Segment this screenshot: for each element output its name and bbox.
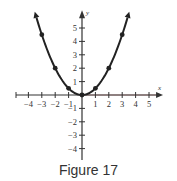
- x-tick-label: −3: [37, 99, 46, 109]
- y-tick-label: −3: [68, 130, 77, 140]
- figure-caption: Figure 17: [0, 162, 177, 178]
- x-axis-label: x: [157, 84, 162, 92]
- y-tick-label: −4: [68, 144, 78, 154]
- x-tick-label: 5: [147, 99, 151, 109]
- y-axis-label: y: [85, 9, 90, 17]
- y-tick-label: 3: [73, 50, 77, 60]
- y-axis-arrow-icon: [79, 10, 85, 18]
- data-point: [93, 86, 98, 91]
- y-tick-label: 5: [73, 23, 77, 33]
- data-point: [39, 32, 44, 37]
- y-tick-label: 1: [73, 77, 77, 87]
- x-tick-label: 2: [107, 99, 111, 109]
- y-tick-label: 2: [73, 63, 77, 73]
- curve-arrow-icon: [125, 12, 131, 19]
- data-point: [80, 93, 85, 98]
- x-tick-label: −4: [24, 99, 34, 109]
- x-tick-label: 3: [120, 99, 124, 109]
- data-point: [106, 66, 111, 71]
- y-tick-label: 4: [73, 36, 78, 46]
- y-tick-label: −1: [68, 103, 77, 113]
- tick-labels: −4−3−2−112345−4−3−2−112345: [24, 23, 151, 154]
- data-point: [120, 32, 125, 37]
- y-tick-label: −2: [68, 117, 77, 127]
- x-axis-arrow-icon: [156, 92, 163, 98]
- axes: [16, 10, 163, 160]
- x-tick-label: −2: [51, 99, 60, 109]
- data-point: [53, 66, 58, 71]
- x-tick-label: 1: [93, 99, 97, 109]
- curve-arrow-icon: [34, 12, 40, 19]
- x-tick-label: 4: [133, 99, 138, 109]
- data-point: [66, 86, 71, 91]
- parabola-chart: −4−3−2−112345−4−3−2−112345 x y: [0, 0, 177, 160]
